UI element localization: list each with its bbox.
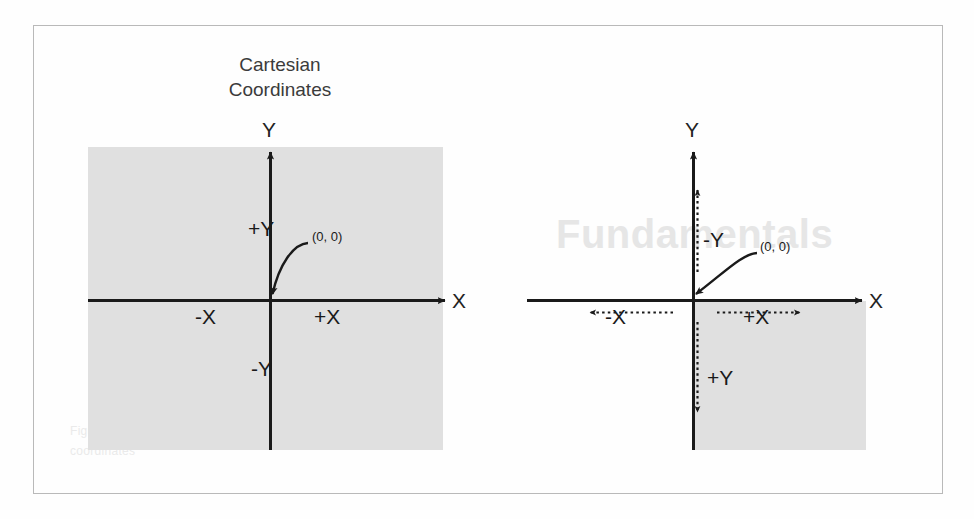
axes-screen (0, 0, 974, 519)
screen-x-axis-label: X (869, 289, 883, 313)
figure-page: Fundamentals Figure 1-1. Cartesian vs. S… (0, 0, 974, 519)
screen-y-axis-label: Y (685, 118, 699, 142)
screen-minus-x-label: -X (605, 305, 626, 329)
screen-plus-x-label: +X (743, 305, 769, 329)
screen-plus-y-label: +Y (707, 366, 733, 390)
screen-origin-pointer-arrow (696, 253, 757, 294)
screen-minus-y-label: -Y (703, 228, 724, 252)
screen-origin-label: (0, 0) (760, 239, 790, 254)
